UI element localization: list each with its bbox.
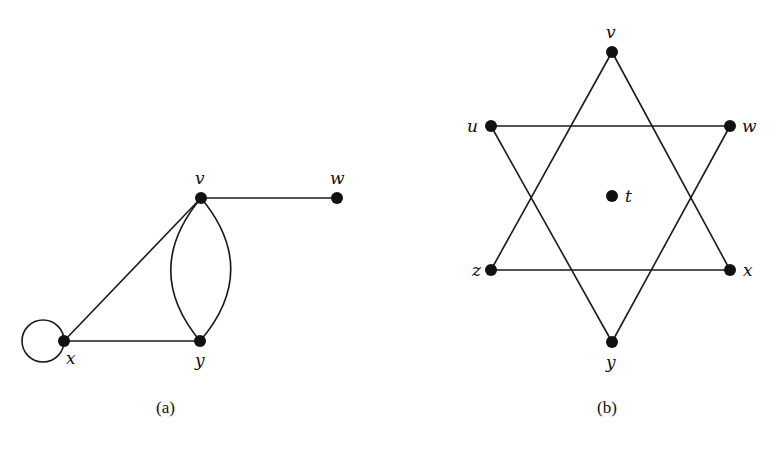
vertex-a-w: [331, 192, 343, 204]
label-b-w: w: [742, 116, 757, 136]
graph-b: v u w t z x y (b): [467, 22, 757, 417]
edge-v-y-left-arc: [171, 198, 201, 341]
label-a-y: y: [194, 350, 205, 370]
edge-v-x: [612, 52, 730, 270]
caption-b: (b): [597, 398, 617, 417]
edge-w-y: [612, 126, 730, 342]
vertex-b-v: [606, 46, 618, 58]
label-b-y: y: [605, 352, 616, 372]
vertex-a-x: [58, 335, 70, 347]
vertex-b-u: [485, 120, 497, 132]
vertex-b-w: [724, 120, 736, 132]
vertex-b-x: [724, 264, 736, 276]
label-b-u: u: [467, 116, 478, 136]
edge-v-x: [64, 198, 201, 341]
edge-u-y: [491, 126, 612, 342]
edge-v-y-right-arc: [200, 198, 231, 341]
figure-canvas: v w x y (a) v u w t z x y (b): [0, 0, 780, 449]
vertex-a-v: [195, 192, 207, 204]
label-a-v: v: [195, 168, 205, 188]
label-b-t: t: [625, 186, 632, 206]
label-b-x: x: [743, 260, 753, 280]
label-b-z: z: [471, 260, 482, 280]
vertex-b-z: [485, 264, 497, 276]
label-a-x: x: [66, 348, 76, 368]
vertex-a-y: [194, 335, 206, 347]
loop-x: [22, 320, 64, 362]
edge-v-z: [491, 52, 612, 270]
label-b-v: v: [606, 22, 616, 42]
caption-a: (a): [156, 398, 175, 417]
label-a-w: w: [330, 168, 345, 188]
vertex-b-y: [606, 336, 618, 348]
graph-a: v w x y (a): [22, 168, 345, 417]
vertex-b-t: [606, 190, 618, 202]
